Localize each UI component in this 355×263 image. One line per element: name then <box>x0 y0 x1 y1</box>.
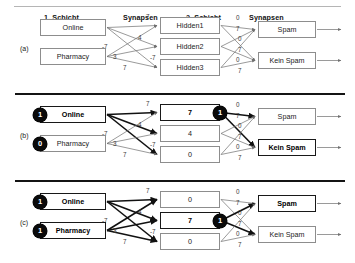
activation-badge-input-b-1: 0 <box>33 137 47 151</box>
input-node-a-0[interactable]: Online <box>40 19 106 36</box>
synapse-weight-l2-c-5: 7 <box>238 241 242 248</box>
synapse-weight-l1-b-1: 4 <box>138 121 142 128</box>
synapse-weight-l1-a-3: 3 <box>113 53 117 60</box>
section-divider-0 <box>15 93 345 95</box>
synapse-weight-l1-a-5: 7 <box>123 64 127 71</box>
synapse-line <box>107 115 157 155</box>
activation-badge-input-b-0: 1 <box>33 108 47 122</box>
synapse-weight-l1-c-0: 7 <box>146 187 150 194</box>
output-node-a-1[interactable]: Kein Spam <box>258 52 316 69</box>
hidden-node-a-2[interactable]: Hidden3 <box>160 59 220 76</box>
synapse-weight-l2-b-0: 0 <box>236 101 240 108</box>
synapse-weight-l2-c-0: 0 <box>236 188 240 195</box>
synapse-weight-l2-a-3: 7 <box>238 46 242 53</box>
synapse-weight-l1-b-0: 7 <box>146 100 150 107</box>
column-header-1: Synapsen <box>123 13 158 22</box>
synapse-weight-l1-a-4: -7 <box>150 54 156 61</box>
synapse-weight-l1-b-5: 7 <box>123 151 127 158</box>
synapse-line <box>107 200 157 202</box>
synapse-weight-l2-a-1: 7 <box>236 25 240 32</box>
hidden-node-b-2[interactable]: 0 <box>160 146 220 163</box>
synapse-weight-l2-c-2: 0 <box>238 209 242 216</box>
synapse-line <box>107 26 157 28</box>
synapse-weight-l1-b-4: -7 <box>150 141 156 148</box>
synapse-weight-l2-a-2: 0 <box>238 35 242 42</box>
synapse-weight-l1-a-1: 4 <box>138 34 142 41</box>
synapse-weight-l1-a-0: 7 <box>146 13 150 20</box>
synapse-weight-l1-c-5: 7 <box>123 238 127 245</box>
output-node-b-1[interactable]: Kein Spam <box>258 139 316 156</box>
synapse-weight-l2-b-1: 7 <box>236 112 240 119</box>
synapse-weight-l2-b-3: 7 <box>238 133 242 140</box>
synapse-weight-l1-c-1: 4 <box>138 208 142 215</box>
hidden-node-b-1[interactable]: 4 <box>160 125 220 142</box>
section-label-c: (c) <box>20 219 28 226</box>
output-node-a-0[interactable]: Spam <box>258 21 316 38</box>
synapse-weight-l2-a-4: 0 <box>236 56 240 63</box>
section-label-a: (a) <box>20 45 29 52</box>
input-node-b-0[interactable]: Online <box>40 106 106 123</box>
hidden-node-c-1[interactable]: 7 <box>160 212 220 229</box>
synapse-line <box>107 28 157 68</box>
output-node-c-0[interactable]: Spam <box>258 195 316 212</box>
synapse-weight-l2-b-4: 0 <box>236 143 240 150</box>
synapse-weight-l1-c-3: 3 <box>113 227 117 234</box>
synapse-weight-l2-c-3: 7 <box>238 220 242 227</box>
synapse-weight-l2-a-5: 7 <box>238 67 242 74</box>
hidden-node-c-2[interactable]: 0 <box>160 233 220 250</box>
figure-canvas: 1. SchichtSynapsen2. SchichtSynapsen(a)7… <box>0 0 355 263</box>
activation-badge-hidden-c-1: 1 <box>213 214 227 228</box>
input-node-c-1[interactable]: Pharmacy <box>40 222 106 239</box>
synapse-line <box>107 113 157 115</box>
output-node-c-1[interactable]: Kein Spam <box>258 226 316 243</box>
synapse-weight-l2-c-4: 0 <box>236 230 240 237</box>
activation-badge-input-c-1: 1 <box>33 224 47 238</box>
synapse-weight-l2-b-5: 7 <box>238 154 242 161</box>
section-label-b: (b) <box>20 132 29 139</box>
synapse-weight-l2-c-1: 7 <box>236 199 240 206</box>
hidden-node-a-0[interactable]: Hidden1 <box>160 17 220 34</box>
input-node-a-1[interactable]: Pharmacy <box>40 48 106 65</box>
input-node-c-0[interactable]: Online <box>40 193 106 210</box>
output-node-b-0[interactable]: Spam <box>258 108 316 125</box>
input-node-b-1[interactable]: Pharmacy <box>40 135 106 152</box>
section-divider-1 <box>15 180 345 182</box>
hidden-node-b-0[interactable]: 7 <box>160 104 220 121</box>
synapse-weight-l2-a-0: 0 <box>236 14 240 21</box>
synapse-weight-l1-b-3: 3 <box>113 140 117 147</box>
hidden-node-a-1[interactable]: Hidden2 <box>160 38 220 55</box>
synapse-weight-l1-c-4: -7 <box>150 228 156 235</box>
activation-badge-hidden-b-0: 1 <box>213 106 227 120</box>
activation-badge-input-c-0: 1 <box>33 195 47 209</box>
hidden-node-c-0[interactable]: 0 <box>160 191 220 208</box>
synapse-weight-l2-b-2: 0 <box>238 122 242 129</box>
